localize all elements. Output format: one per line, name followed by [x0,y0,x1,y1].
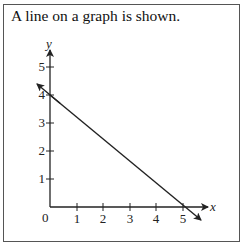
svg-text:2: 2 [100,211,107,226]
svg-text:3: 3 [39,115,46,130]
graph-line [50,95,201,220]
y-tick-labels: 1 2 3 4 5 [39,59,46,186]
svg-text:5: 5 [180,211,187,226]
svg-text:2: 2 [39,143,46,158]
svg-text:4: 4 [39,87,46,102]
svg-text:5: 5 [39,59,46,74]
svg-text:4: 4 [153,211,160,226]
origin-label: 0 [42,210,49,225]
line-graph: y x 0 1 2 3 4 5 1 2 3 4 5 [0,0,246,249]
y-axis-label: y [44,36,52,51]
x-tick-labels: 1 2 3 4 5 [74,211,187,226]
svg-text:3: 3 [127,211,134,226]
svg-text:1: 1 [39,171,46,186]
x-axis-label: x [209,199,216,214]
svg-text:1: 1 [74,211,81,226]
